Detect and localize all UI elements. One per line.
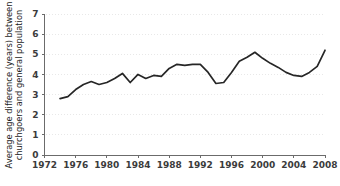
x-tick-label: 1996 bbox=[219, 160, 244, 170]
y-tick-label: 0 bbox=[32, 150, 38, 160]
chart-page: 01234567 1972197619801984198819921996200… bbox=[0, 0, 340, 186]
y-tick-label: 1 bbox=[32, 130, 38, 140]
x-tick-label: 2000 bbox=[250, 160, 275, 170]
y-axis-title-line2: churchgoers and general population bbox=[14, 10, 24, 161]
y-tick-label: 4 bbox=[32, 70, 38, 80]
y-tick-label: 6 bbox=[32, 29, 38, 39]
x-tick-label: 2004 bbox=[281, 160, 306, 170]
chart-background bbox=[0, 0, 340, 186]
y-tick-label: 7 bbox=[32, 9, 38, 19]
y-tick-label: 5 bbox=[32, 49, 38, 59]
x-tick-label: 1984 bbox=[125, 160, 150, 170]
y-axis-title-line1: Average age difference (years) between bbox=[4, 2, 14, 169]
x-tick-label: 1980 bbox=[94, 160, 119, 170]
x-tick-label: 1992 bbox=[188, 160, 213, 170]
x-tick-label: 1988 bbox=[157, 160, 182, 170]
x-tick-label: 1976 bbox=[63, 160, 88, 170]
x-tick-label: 2008 bbox=[312, 160, 337, 170]
y-tick-label: 3 bbox=[32, 90, 38, 100]
line-chart: 01234567 1972197619801984198819921996200… bbox=[0, 0, 340, 186]
y-tick-label: 2 bbox=[32, 110, 38, 120]
x-tick-label: 1972 bbox=[32, 160, 57, 170]
